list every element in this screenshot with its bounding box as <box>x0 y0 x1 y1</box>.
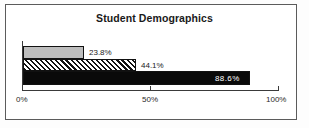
x-axis-tick-label-0: 0% <box>16 95 28 104</box>
bar-value-label-3: 88.6% <box>215 74 240 83</box>
bar-value-label-1: 23.8% <box>89 48 112 57</box>
bar-series-2 <box>23 59 136 71</box>
bar-series-1 <box>23 46 84 59</box>
bar-value-label-2: 44.1% <box>141 61 164 70</box>
x-axis-tick-label-100: 100% <box>266 95 286 104</box>
chart-title: Student Demographics <box>0 12 309 24</box>
x-axis-tick-label-50: 50% <box>142 95 158 104</box>
x-axis-tick-50 <box>150 86 151 91</box>
x-axis-tick-0 <box>22 86 23 91</box>
x-axis-tick-100 <box>278 86 279 91</box>
chart-container: Student Demographics 0% 50% 100% 23.8% 4… <box>0 0 309 128</box>
